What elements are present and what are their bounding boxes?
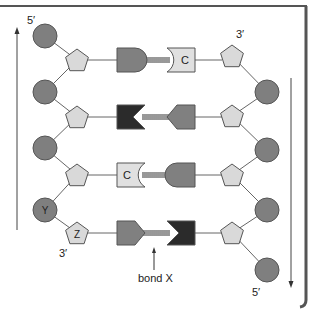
sugar-left bbox=[66, 164, 89, 186]
arrow-down-icon bbox=[289, 281, 294, 288]
base-left bbox=[117, 48, 147, 72]
phosphate-label-y: Y bbox=[42, 205, 49, 216]
left-strand-bottom-label: 3′ bbox=[59, 247, 67, 259]
arrow-up-icon bbox=[152, 247, 156, 253]
base-left bbox=[117, 221, 145, 245]
dna-diagram: CC YZ 5′ 3′ 3′ 5′ bond X bbox=[0, 0, 313, 309]
phosphate-left bbox=[33, 136, 57, 160]
phosphate-left bbox=[33, 24, 57, 48]
sugar-right bbox=[221, 222, 244, 244]
sugar-right bbox=[221, 45, 244, 67]
base-left bbox=[117, 105, 145, 129]
sugar-right bbox=[221, 105, 244, 127]
phosphate-left bbox=[33, 80, 57, 104]
frame-right-line bbox=[300, 6, 306, 307]
phosphate-right bbox=[255, 258, 279, 282]
base-right bbox=[165, 163, 195, 187]
bond-x-annotation: bond X bbox=[138, 247, 174, 284]
sugar-left bbox=[66, 106, 89, 128]
right-strand-top-label: 3′ bbox=[236, 28, 244, 40]
hydrogen-bond bbox=[143, 114, 169, 120]
right-strand-bottom-label: 5′ bbox=[252, 286, 260, 298]
right-direction-arrow bbox=[289, 78, 294, 288]
arrow-up-icon bbox=[15, 27, 20, 34]
base-pair: C bbox=[117, 48, 195, 72]
base-label-c: C bbox=[181, 54, 189, 66]
base-pairs: CC bbox=[117, 48, 195, 245]
hydrogen-bond bbox=[143, 230, 169, 236]
sugar-right bbox=[221, 164, 244, 186]
phosphate-right bbox=[255, 138, 279, 162]
sugar-left bbox=[66, 49, 89, 71]
base-pair: C bbox=[117, 163, 195, 187]
left-strand-top-label: 5′ bbox=[27, 14, 35, 26]
base-right bbox=[167, 221, 195, 245]
bond-x-label: bond X bbox=[138, 272, 174, 284]
base-left bbox=[117, 163, 145, 187]
sugar-label-z: Z bbox=[74, 229, 80, 240]
base-pair bbox=[117, 105, 195, 129]
phosphate-right bbox=[255, 198, 279, 222]
left-direction-arrow bbox=[15, 27, 20, 230]
phosphate-right bbox=[255, 80, 279, 104]
base-right bbox=[167, 105, 195, 129]
base-pair bbox=[117, 221, 195, 245]
base-label-c: C bbox=[123, 169, 131, 181]
